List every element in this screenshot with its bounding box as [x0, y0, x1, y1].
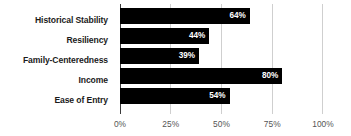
- horizontal-bar-chart: Historical Stability Resiliency Family-C…: [0, 0, 351, 136]
- x-axis-tick-label: 0%: [114, 118, 126, 130]
- category-label: Historical Stability: [35, 12, 108, 28]
- x-axis-tick-label: 100%: [312, 118, 333, 130]
- gridline: [322, 4, 323, 114]
- category-axis-labels: Historical Stability Resiliency Family-C…: [0, 8, 114, 110]
- category-label: Ease of Entry: [54, 92, 108, 108]
- bar-value-label: 64%: [230, 8, 246, 24]
- bar-value-label: 80%: [262, 68, 278, 84]
- bar: 39%: [120, 48, 199, 64]
- gridline: [272, 4, 273, 114]
- bar-value-label: 39%: [179, 48, 195, 64]
- bar: 64%: [120, 8, 250, 24]
- x-axis-tick-labels: 0% 25% 50% 75% 100%: [120, 118, 323, 132]
- bar-value-label: 54%: [209, 88, 225, 104]
- category-label: Resiliency: [66, 32, 108, 48]
- x-axis-tick-label: 50%: [213, 118, 230, 130]
- category-label: Family-Centeredness: [23, 52, 108, 68]
- x-axis-tick-label: 25%: [162, 118, 179, 130]
- bar: 54%: [120, 88, 230, 104]
- bar: 44%: [120, 28, 209, 44]
- plot-area: 64% 44% 39% 80% 54%: [120, 4, 323, 114]
- bar-value-label: 44%: [189, 28, 205, 44]
- bar: 80%: [120, 68, 282, 84]
- x-axis-tick-label: 75%: [264, 118, 281, 130]
- category-label: Income: [79, 72, 109, 88]
